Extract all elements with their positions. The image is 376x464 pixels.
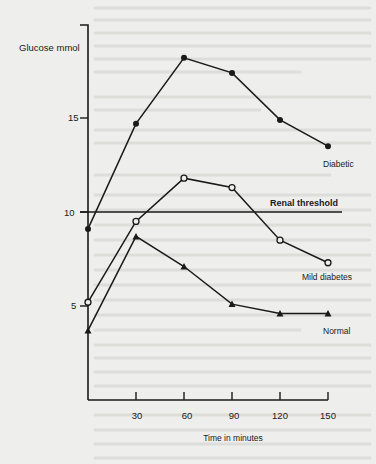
x-tick-label-120: 120 (272, 410, 288, 421)
y-tick-label-5: 5 (71, 300, 76, 311)
series-label-diabetic: Diabetic (323, 159, 354, 169)
series-line (88, 236, 328, 330)
data-point-filled-circle (325, 143, 331, 149)
y-axis-label: Glucose mmol (19, 42, 80, 53)
series-label-mild-diabetes: Mild diabetes (302, 272, 352, 282)
x-tick-label-90: 90 (229, 410, 240, 421)
x-tick-label-30: 30 (132, 410, 143, 421)
data-point-triangle (85, 327, 92, 334)
data-point-open-circle (277, 237, 283, 243)
glucose-tolerance-chart: Glucose mmol 15 10 5 30 60 90 120 150 Ti… (0, 0, 376, 464)
x-axis-label: Time in minutes (203, 433, 263, 443)
data-point-open-circle (85, 299, 91, 305)
data-point-filled-circle (133, 121, 139, 127)
data-point-open-circle (133, 218, 139, 224)
x-tick-label-150: 150 (320, 410, 336, 421)
data-point-filled-circle (181, 55, 187, 61)
data-point-filled-circle (277, 117, 283, 123)
series-label-normal: Normal (323, 326, 351, 336)
series-normal (85, 233, 332, 334)
x-axis-ticks (136, 392, 328, 400)
data-point-filled-circle (229, 70, 235, 76)
renal-threshold-label: Renal threshold (270, 198, 338, 208)
data-point-triangle (133, 233, 140, 240)
series-line (88, 178, 328, 302)
y-tick-label-15: 15 (68, 112, 79, 123)
data-point-open-circle (229, 185, 235, 191)
data-point-open-circle (325, 260, 331, 266)
data-point-open-circle (181, 175, 187, 181)
data-point-filled-circle (85, 226, 91, 232)
series-layer (85, 55, 332, 334)
data-point-triangle (181, 263, 188, 270)
x-tick-label-60: 60 (182, 410, 193, 421)
y-tick-label-10: 10 (64, 207, 75, 218)
